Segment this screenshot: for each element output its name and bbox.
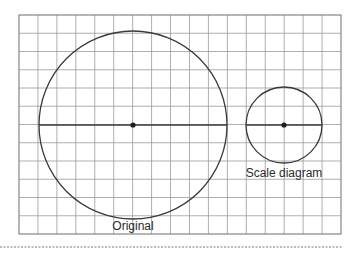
scale-label: Scale diagram — [246, 166, 323, 180]
original-label: Original — [112, 219, 153, 233]
scale-diagram-figure: Original Scale diagram — [0, 0, 359, 254]
scale-center-dot — [281, 122, 286, 127]
shapes: Original Scale diagram — [39, 31, 322, 233]
original-center-dot — [130, 122, 135, 127]
